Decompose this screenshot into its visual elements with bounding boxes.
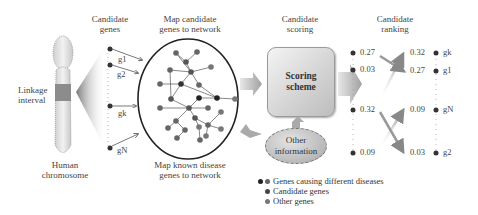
label-line: Linkage <box>18 85 58 95</box>
network-ellipse <box>138 39 238 159</box>
gene-label-g1: g1 <box>118 54 127 64</box>
legend-label: Candidate genes <box>273 186 329 196</box>
header-line: Candidate <box>270 14 330 24</box>
header-map-candidate: Map candidate genes to network <box>145 14 235 34</box>
header-candidate-genes: Candidate genes <box>80 14 140 34</box>
ranked-score-1: 0.32 <box>410 47 425 57</box>
box-line: scheme <box>285 82 316 93</box>
legend-label: Genes causing different diseases <box>273 176 384 186</box>
ranked-score-2: 0.27 <box>410 65 425 75</box>
ranked-gene-1: gk <box>443 47 452 57</box>
legend-label: Other genes <box>273 196 314 206</box>
header-line: Candidate <box>365 14 425 24</box>
other-gene-icon <box>265 199 270 204</box>
scoring-to-ranking-arrow <box>338 64 362 104</box>
disease-gene-gray-icon <box>265 179 270 184</box>
ellipse-line: information <box>275 146 318 157</box>
candidate-gene-icon <box>265 189 270 194</box>
header-line: Candidate <box>80 14 140 24</box>
ranked-gene-3: gN <box>443 104 453 114</box>
network-caption: Map known disease genes to network <box>140 160 240 180</box>
header-line: ranking <box>365 24 425 34</box>
header-line: genes <box>80 24 140 34</box>
legend: Genes causing different diseases Candida… <box>258 176 384 206</box>
legend-item-candidate-genes: Candidate genes <box>258 186 384 196</box>
network-to-scoring-arrow <box>240 72 262 96</box>
ranked-score-4: 0.03 <box>410 147 425 157</box>
gene-label-gN: gN <box>117 145 127 155</box>
header-line: scoring <box>270 24 330 34</box>
legend-item-other-genes: Other genes <box>258 196 384 206</box>
ranked-score-3: 0.09 <box>410 104 425 114</box>
score-before-1: 0.27 <box>360 47 375 57</box>
score-before-2: 0.03 <box>360 64 375 74</box>
human-chromosome-label: Human chromosome <box>35 160 95 180</box>
other-info-to-scoring-arrow <box>292 116 304 128</box>
other-information-ellipse: Other information <box>265 128 327 164</box>
gene-label-gk: gk <box>118 108 127 118</box>
label-line: chromosome <box>35 170 95 180</box>
scoring-scheme-box: Scoring scheme <box>267 47 335 117</box>
label-line: interval <box>18 95 58 105</box>
box-line: Scoring <box>285 71 316 82</box>
ranked-gene-4: g2 <box>443 147 452 157</box>
gene-label-g2: g2 <box>117 69 126 79</box>
ellipse-line: Other <box>275 135 318 146</box>
legend-item-disease-genes: Genes causing different diseases <box>258 176 384 186</box>
header-line: genes to network <box>145 24 235 34</box>
caption-line: genes to network <box>140 170 240 180</box>
header-line: Map candidate <box>145 14 235 24</box>
label-line: Human <box>35 160 95 170</box>
score-before-4: 0.09 <box>360 147 375 157</box>
header-candidate-ranking: Candidate ranking <box>365 14 425 34</box>
disease-gene-dark-icon <box>258 179 263 184</box>
caption-line: Map known disease <box>140 160 240 170</box>
ranked-gene-2: g1 <box>443 65 452 75</box>
linkage-interval-label: Linkage interval <box>18 85 58 105</box>
header-candidate-scoring: Candidate scoring <box>270 14 330 34</box>
zoom-wedge <box>76 45 106 150</box>
network-nodes <box>157 49 238 143</box>
score-before-3: 0.32 <box>360 104 375 114</box>
rank-crossing-arrows <box>380 56 402 150</box>
other-info-to-network-arrow <box>240 124 262 138</box>
